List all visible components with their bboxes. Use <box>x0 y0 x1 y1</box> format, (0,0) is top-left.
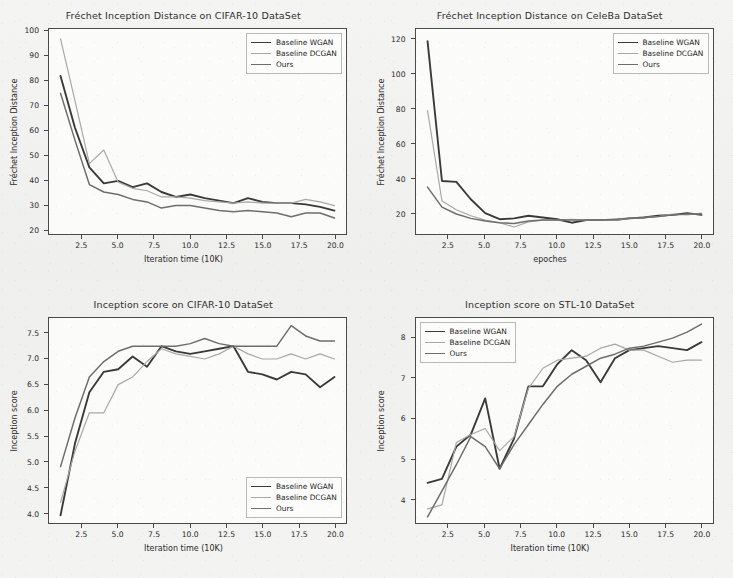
x-tick-mark <box>262 524 263 528</box>
y-tick-mark <box>44 230 48 231</box>
x-tick-mark <box>81 524 82 528</box>
legend-label: Ours <box>450 349 467 358</box>
y-tick-mark <box>411 213 415 214</box>
legend-line-swatch <box>618 53 638 54</box>
legend-line-swatch <box>251 53 271 54</box>
y-tick-mark <box>44 461 48 462</box>
legend-label: Ours <box>276 504 293 513</box>
y-tick-label: 30 <box>0 201 39 210</box>
x-tick-mark <box>335 524 336 528</box>
x-tick-mark <box>520 235 521 239</box>
x-tick-label: 10.0 <box>548 530 565 539</box>
x-tick-label: 5.0 <box>478 241 490 250</box>
x-tick-mark <box>484 524 485 528</box>
x-tick-mark <box>520 524 521 528</box>
x-tick-label: 10.0 <box>548 241 565 250</box>
y-axis-label: Inception score <box>10 317 19 524</box>
x-tick-mark <box>190 235 191 239</box>
x-tick-mark <box>299 235 300 239</box>
legend-label: Baseline WGAN <box>450 327 507 336</box>
x-tick-label: 7.5 <box>148 530 160 539</box>
x-tick-label: 5.0 <box>112 530 124 539</box>
legend-row: Baseline DCGAN <box>425 337 510 348</box>
chart-legend: Baseline WGANBaseline DCGANOurs <box>246 33 342 74</box>
chart-fid-celeba: Fréchet Inception Distance on CeleBa Dat… <box>367 0 733 289</box>
x-tick-mark <box>665 524 666 528</box>
y-tick-mark <box>44 105 48 106</box>
panel-is-stl10: Inception score on STL-10 DataSet456782.… <box>367 289 733 578</box>
y-tick-mark <box>44 30 48 31</box>
y-tick-label: 4.5 <box>0 483 39 492</box>
x-tick-mark <box>335 235 336 239</box>
y-tick-label: 120 <box>367 34 406 43</box>
panel-is-cifar10: Inception score on CIFAR-10 DataSet4.04.… <box>0 289 367 578</box>
x-tick-label: 20.0 <box>693 241 710 250</box>
x-tick-mark <box>701 235 702 239</box>
y-tick-mark <box>411 377 415 378</box>
legend-line-swatch <box>251 486 271 487</box>
y-tick-mark <box>411 73 415 74</box>
y-tick-mark <box>44 332 48 333</box>
chart-title: Inception score on CIFAR-10 DataSet <box>0 299 367 310</box>
legend-row: Ours <box>618 59 703 70</box>
x-tick-label: 20.0 <box>327 241 344 250</box>
y-tick-mark <box>411 418 415 419</box>
legend-label: Baseline DCGAN <box>276 49 337 58</box>
series-line-baseline-wgan <box>427 342 701 483</box>
y-tick-label: 7.5 <box>0 328 39 337</box>
chart-fid-cifar10: Fréchet Inception Distance on CIFAR-10 D… <box>0 0 367 289</box>
y-tick-mark <box>44 80 48 81</box>
x-tick-label: 7.5 <box>514 530 526 539</box>
chart-legend: Baseline WGANBaseline DCGANOurs <box>613 33 709 74</box>
y-tick-label: 5.5 <box>0 432 39 441</box>
legend-row: Baseline DCGAN <box>251 492 336 503</box>
legend-label: Baseline WGAN <box>643 38 700 47</box>
legend-line-swatch <box>425 342 445 343</box>
x-tick-mark <box>629 235 630 239</box>
x-tick-label: 17.5 <box>657 241 674 250</box>
y-tick-label: 40 <box>367 174 406 183</box>
y-tick-label: 60 <box>0 126 39 135</box>
figure-grid: Fréchet Inception Distance on CIFAR-10 D… <box>0 0 733 578</box>
x-tick-label: 2.5 <box>442 241 454 250</box>
x-tick-label: 12.5 <box>218 530 235 539</box>
y-tick-mark <box>411 499 415 500</box>
x-tick-mark <box>701 524 702 528</box>
y-tick-mark <box>44 155 48 156</box>
panel-fid-cifar10: Fréchet Inception Distance on CIFAR-10 D… <box>0 0 367 289</box>
series-line-baseline-dcgan <box>427 344 701 509</box>
y-tick-label: 60 <box>367 139 406 148</box>
x-tick-mark <box>117 524 118 528</box>
y-tick-label: 5.0 <box>0 457 39 466</box>
x-tick-mark <box>153 524 154 528</box>
legend-line-swatch <box>251 497 271 498</box>
y-tick-mark <box>44 384 48 385</box>
y-tick-label: 80 <box>367 104 406 113</box>
x-axis-label: Iteration time (10K) <box>0 255 367 264</box>
legend-line-swatch <box>251 42 271 43</box>
y-axis-label: Fréchet Inception Distance <box>377 28 386 235</box>
x-tick-mark <box>556 235 557 239</box>
legend-line-swatch <box>425 331 445 332</box>
y-tick-label: 70 <box>0 101 39 110</box>
y-tick-label: 4.0 <box>0 509 39 518</box>
y-tick-label: 100 <box>367 69 406 78</box>
panel-fid-celeba: Fréchet Inception Distance on CeleBa Dat… <box>367 0 733 289</box>
legend-line-swatch <box>425 353 445 354</box>
y-tick-mark <box>411 108 415 109</box>
x-tick-label: 2.5 <box>75 241 87 250</box>
y-tick-label: 8 <box>367 333 406 342</box>
y-tick-label: 7.0 <box>0 354 39 363</box>
chart-title: Fréchet Inception Distance on CIFAR-10 D… <box>0 10 367 21</box>
x-tick-label: 12.5 <box>218 241 235 250</box>
y-tick-label: 5 <box>367 455 406 464</box>
legend-line-swatch <box>618 42 638 43</box>
legend-row: Baseline WGAN <box>425 326 510 337</box>
x-tick-label: 12.5 <box>585 241 602 250</box>
x-tick-mark <box>593 524 594 528</box>
x-tick-mark <box>629 524 630 528</box>
x-tick-mark <box>153 235 154 239</box>
x-tick-label: 20.0 <box>327 530 344 539</box>
y-tick-label: 20 <box>0 226 39 235</box>
y-tick-mark <box>411 337 415 338</box>
